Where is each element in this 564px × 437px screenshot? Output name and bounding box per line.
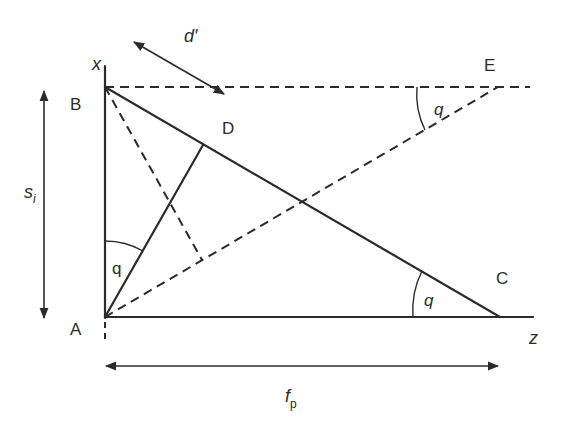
label-angle-C: q [424, 291, 434, 310]
label-angle-E: q [434, 100, 444, 119]
label-angle-A: q [112, 259, 121, 278]
label-point-C: C [496, 269, 508, 288]
line-AD [105, 145, 203, 317]
label-si-main: s [24, 182, 33, 202]
label-si-subscript: i [33, 192, 36, 206]
label-point-D: D [222, 119, 234, 138]
label-point-A: A [70, 320, 82, 339]
label-fp-subscript: p [290, 397, 297, 411]
geometry-diagram: B D E C A x z d′ si fp q q q [0, 0, 564, 437]
label-si: si [24, 182, 36, 206]
label-z-axis: z [528, 328, 538, 348]
angle-arc-E [417, 87, 425, 130]
d-prime-arrow [134, 42, 224, 94]
label-point-B: B [70, 95, 81, 114]
label-fp: fp [285, 386, 297, 411]
angle-arc-C [413, 271, 422, 317]
label-d-prime: d′ [184, 26, 198, 46]
label-x-axis: x [91, 54, 102, 74]
label-point-E: E [484, 56, 495, 75]
angle-arc-A [105, 241, 143, 251]
